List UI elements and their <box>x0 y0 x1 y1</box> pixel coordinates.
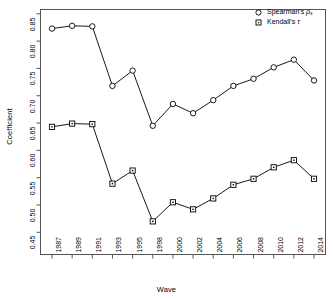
x-tick-label: 1989 <box>75 237 82 261</box>
chart-figure: Coefficient Wave 0.850.800.750.700.650.6… <box>0 0 333 299</box>
x-tick-label: 2000 <box>176 237 183 261</box>
data-point-marker <box>291 57 296 62</box>
legend-label-spearman: Spearman's ρs <box>267 7 313 18</box>
plot-panel-border <box>41 10 326 255</box>
data-point-center <box>152 221 153 222</box>
legend-item-spearman: Spearman's ρs <box>254 7 313 17</box>
y-axis-ticks <box>37 14 41 233</box>
data-point-marker <box>271 65 276 70</box>
data-point-center <box>172 202 173 203</box>
y-tick-label: 0.50 <box>28 203 35 227</box>
x-axis-ticks <box>52 255 314 259</box>
data-point-marker <box>90 24 95 29</box>
data-point-center <box>213 198 214 199</box>
circle-marker-icon <box>254 8 263 17</box>
x-tick-label: 2014 <box>317 237 324 261</box>
data-point-center <box>233 184 234 185</box>
y-tick-label: 0.65 <box>28 122 35 146</box>
x-tick-label: 1993 <box>115 237 122 261</box>
data-point-center <box>273 167 274 168</box>
data-point-marker <box>49 26 54 31</box>
data-point-marker <box>130 68 135 73</box>
series-line <box>52 124 314 222</box>
legend-item-kendall: Kendall's τ <box>254 17 313 27</box>
y-tick-label: 0.75 <box>28 67 35 91</box>
y-tick-label: 0.85 <box>28 12 35 36</box>
data-point-center <box>132 170 133 171</box>
x-tick-label: 1987 <box>55 237 62 261</box>
data-point-marker <box>69 23 74 28</box>
data-point-center <box>253 178 254 179</box>
data-point-center <box>51 126 52 127</box>
square-marker-icon <box>254 18 263 27</box>
x-tick-label: 1991 <box>95 237 102 261</box>
x-tick-label: 2012 <box>297 237 304 261</box>
x-tick-label: 2010 <box>277 237 284 261</box>
y-tick-label: 0.80 <box>28 40 35 64</box>
x-tick-label: 2008 <box>257 237 264 261</box>
data-point-marker <box>211 97 216 102</box>
chart-legend: Spearman's ρs Kendall's τ <box>254 7 313 27</box>
x-tick-label: 1995 <box>136 237 143 261</box>
data-point-center <box>192 209 193 210</box>
data-point-marker <box>311 78 316 83</box>
data-point-center <box>71 123 72 124</box>
data-series-layer <box>49 23 316 224</box>
x-tick-label: 2004 <box>216 237 223 261</box>
y-tick-label: 0.45 <box>28 231 35 255</box>
series-line <box>52 26 314 126</box>
data-point-center <box>313 178 314 179</box>
series-kendall <box>49 121 316 224</box>
legend-label-kendall: Kendall's τ <box>267 17 300 27</box>
data-point-marker <box>190 111 195 116</box>
data-point-marker <box>150 123 155 128</box>
data-point-marker <box>170 101 175 106</box>
series-spearman <box>49 23 316 128</box>
data-point-center <box>92 123 93 124</box>
x-tick-label: 1998 <box>156 237 163 261</box>
x-tick-label: 2006 <box>236 237 243 261</box>
y-tick-label: 0.55 <box>28 176 35 200</box>
y-tick-label: 0.70 <box>28 94 35 118</box>
data-point-marker <box>231 83 236 88</box>
data-point-center <box>293 160 294 161</box>
data-point-marker <box>251 76 256 81</box>
x-tick-label: 2002 <box>196 237 203 261</box>
data-point-marker <box>110 83 115 88</box>
y-tick-label: 0.60 <box>28 149 35 173</box>
data-point-center <box>112 183 113 184</box>
